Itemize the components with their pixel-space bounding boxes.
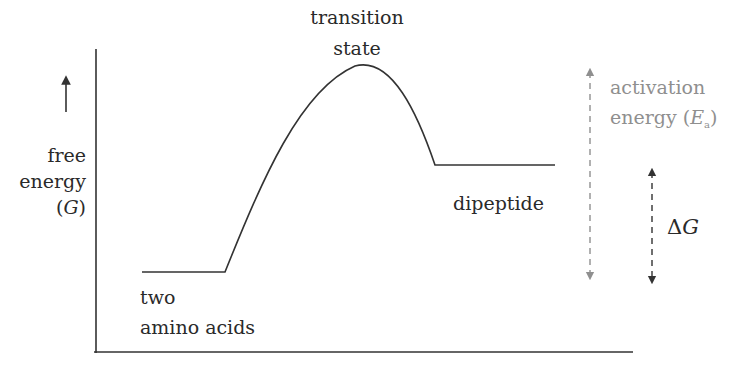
y-axis-label-line2: energy	[6, 168, 86, 194]
energy-curve	[142, 65, 555, 272]
transition-state-label: transition state	[292, 4, 422, 61]
y-axis-label: free energy (G)	[6, 142, 86, 220]
products-label: dipeptide	[453, 190, 544, 216]
g-variable: G	[682, 215, 699, 239]
activation-energy-line2: energy (Ea)	[610, 104, 717, 138]
delta-g-label: ΔG	[667, 214, 699, 240]
delta-symbol: Δ	[667, 215, 682, 239]
activation-energy-label: activation energy (Ea)	[610, 74, 717, 138]
energy-text: energy (	[610, 106, 690, 128]
energy-diagram: free energy (G) transition state two ami…	[0, 0, 737, 369]
e-variable: E	[690, 106, 704, 128]
paren-close: )	[79, 196, 86, 218]
activation-energy-line1: activation	[610, 74, 717, 100]
transition-state-line2: state	[292, 35, 422, 61]
y-axis-label-line3: (G)	[6, 194, 86, 220]
transition-state-line1: transition	[292, 4, 422, 30]
g-variable: G	[63, 196, 78, 218]
reactants-line2: amino acids	[140, 314, 255, 340]
y-axis-label-line1: free	[6, 142, 86, 168]
reactants-line1: two	[140, 284, 255, 310]
paren-close: )	[710, 106, 717, 128]
reactants-label: two amino acids	[140, 284, 255, 340]
